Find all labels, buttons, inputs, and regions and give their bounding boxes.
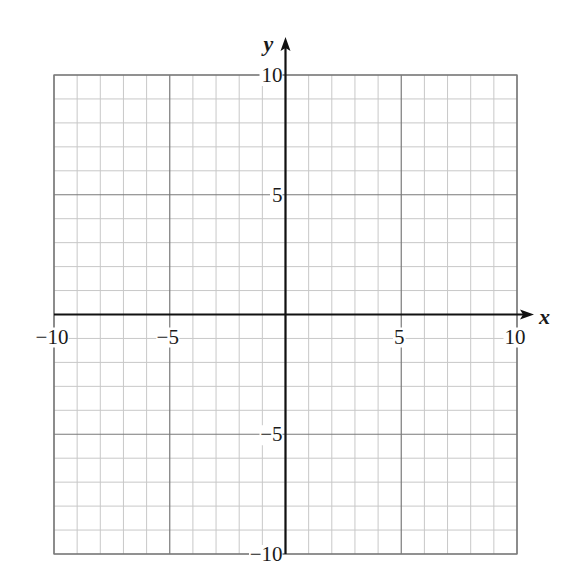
x-tick-label: −5 <box>157 325 179 349</box>
y-axis-label: y <box>261 31 274 56</box>
y-tick-label: −5 <box>260 422 282 446</box>
x-tick-label: 5 <box>394 325 405 349</box>
x-tick-label: −10 <box>36 325 69 349</box>
axes <box>54 37 534 554</box>
coordinate-plane: −10−5510105−5−10 x y <box>0 0 581 588</box>
x-axis-label: x <box>538 304 550 329</box>
y-tick-label: −10 <box>250 542 283 566</box>
x-tick-label: 10 <box>505 325 526 349</box>
y-tick-label: 5 <box>272 183 283 207</box>
y-tick-label: 10 <box>262 63 283 87</box>
